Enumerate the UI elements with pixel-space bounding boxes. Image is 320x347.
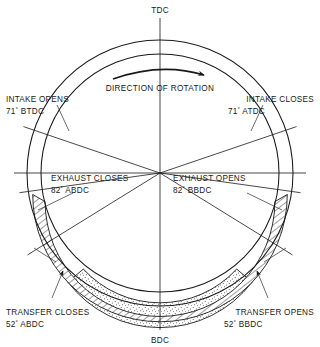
exhaust-closes-angle-value: 82	[51, 186, 61, 195]
intake-closes-line	[160, 127, 297, 173]
transfer-closes-angle: 52° ABDC	[6, 319, 44, 329]
exhaust-opens-label: EXHAUST OPENS	[173, 174, 246, 183]
timing-diagram-svg: TDC BDC DIRECTION OF ROTATION INTAKE OPE…	[0, 0, 320, 347]
intake-opens-angle-value: 71	[6, 107, 16, 116]
transfer-opens-reference: BBDC	[239, 320, 263, 329]
intake-closes-label: INTAKE CLOSES	[246, 95, 314, 104]
intake-opens-line	[24, 127, 161, 173]
intake-closes-angle: 71° ATDC	[228, 106, 265, 116]
transfer-opens-leader	[257, 271, 268, 298]
transfer-opens-angle: 52° BBDC	[224, 319, 263, 329]
intake-opens-label: INTAKE OPENS	[6, 95, 69, 104]
transfer-opens-angle-value: 52	[224, 320, 234, 329]
intake-opens-reference: BTDC	[21, 107, 44, 116]
intake-closes-reference: ATDC	[242, 107, 265, 116]
exhaust-closes-reference: ABDC	[65, 186, 89, 195]
transfer-closes-reference: ABDC	[20, 320, 44, 329]
exhaust-closes-label: EXHAUST CLOSES	[51, 174, 129, 183]
timing-diagram-canvas: TDC BDC DIRECTION OF ROTATION INTAKE OPE…	[0, 0, 320, 347]
intake-closes-angle-value: 71	[228, 107, 238, 116]
intake-opens-angle: 71° BTDC	[6, 106, 44, 116]
exhaust-opens-angle-value: 82	[173, 186, 183, 195]
intake-opens-tick	[57, 105, 69, 131]
transfer-closes-line	[28, 173, 161, 255]
exhaust-closes-angle: 82° ABDC	[51, 185, 89, 195]
rotation-arrow	[113, 69, 204, 79]
transfer-closes-leader	[52, 271, 63, 298]
exhaust-opens-reference: BBDC	[188, 186, 212, 195]
bdc-label: BDC	[151, 336, 169, 345]
exhaust-opens-angle: 82° BBDC	[173, 185, 212, 195]
tdc-label: TDC	[151, 6, 169, 15]
transfer-opens-label: TRANSFER OPENS	[235, 308, 314, 317]
rotation-caption: DIRECTION OF ROTATION	[106, 84, 214, 93]
transfer-closes-angle-value: 52	[6, 320, 16, 329]
transfer-closes-label: TRANSFER CLOSES	[6, 308, 90, 317]
